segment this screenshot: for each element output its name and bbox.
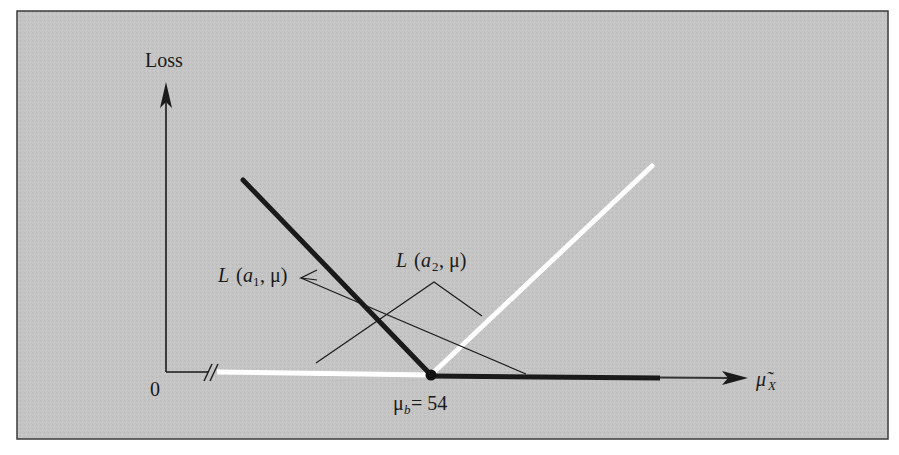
loss-diagram: Loss 0 μ̃ X μ b = 54 L ( a 1 , μ) L ( [0, 0, 899, 455]
svg-text:(: ( [231, 264, 243, 287]
svg-text:1: 1 [253, 274, 260, 289]
svg-text:a: a [243, 264, 253, 286]
svg-text:X: X [767, 378, 777, 393]
svg-text:(: ( [409, 249, 421, 272]
series-a1-label: L ( a 1 , μ) [217, 264, 287, 289]
origin-label: 0 [150, 378, 160, 400]
series-a1-flat-segment [431, 376, 660, 378]
svg-text:, μ): , μ) [439, 249, 466, 272]
mu-b-label: μ b = 54 [393, 392, 447, 417]
mu-b-point [426, 370, 437, 381]
svg-text:, μ): , μ) [260, 264, 287, 287]
svg-text:μ: μ [393, 392, 404, 415]
svg-text:b: b [404, 402, 411, 417]
svg-text:a: a [421, 249, 431, 271]
svg-text:L: L [395, 249, 407, 271]
svg-text:L: L [217, 264, 229, 286]
svg-text:2: 2 [432, 259, 439, 274]
svg-text:= 54: = 54 [411, 392, 447, 414]
series-a2-label: L ( a 2 , μ) [395, 249, 466, 274]
series-a2-flat-segment [217, 372, 431, 375]
y-axis-label: Loss [145, 49, 183, 71]
